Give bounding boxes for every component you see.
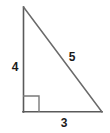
- side-label-vertical-leg: 4: [9, 61, 21, 73]
- right-triangle-diagram: 4 5 3: [0, 0, 110, 133]
- side-label-hypotenuse: 5: [66, 51, 78, 63]
- right-angle-square: [23, 96, 39, 112]
- side-label-horizontal-leg: 3: [58, 117, 70, 129]
